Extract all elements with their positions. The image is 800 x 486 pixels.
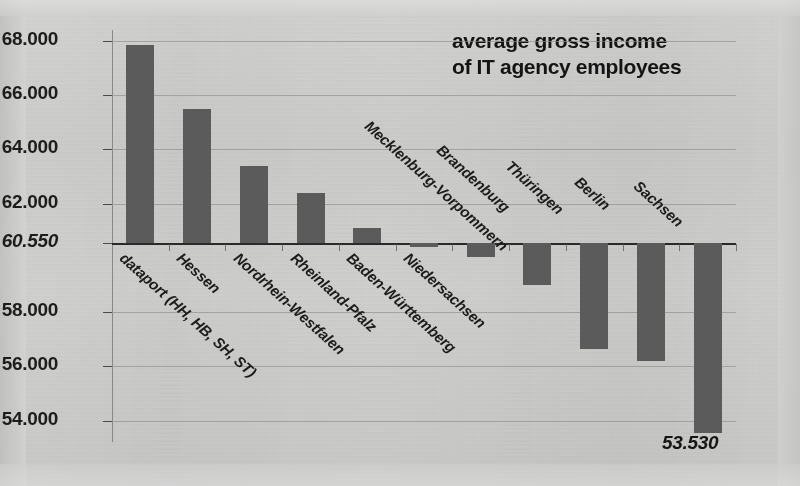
- bar: [183, 109, 211, 243]
- bar: [523, 243, 551, 285]
- min-value-annotation: 53.530: [662, 432, 718, 454]
- bar: [694, 243, 722, 433]
- x-axis-tick: [339, 244, 340, 251]
- x-axis-tick: [169, 244, 170, 251]
- chart-page: average gross income of IT agency employ…: [0, 0, 800, 486]
- plot-area: [0, 0, 800, 486]
- bar: [240, 166, 268, 243]
- x-axis-tick: [679, 244, 680, 251]
- bar: [637, 243, 665, 361]
- bar: [580, 243, 608, 349]
- bar: [297, 193, 325, 243]
- x-axis-tick: [736, 244, 737, 251]
- bar: [410, 243, 438, 247]
- x-axis-tick: [282, 244, 283, 251]
- x-axis-tick: [396, 244, 397, 251]
- bar: [353, 228, 381, 243]
- x-axis-tick: [509, 244, 510, 251]
- x-axis-tick: [452, 244, 453, 251]
- x-axis-tick: [566, 244, 567, 251]
- x-axis-tick: [225, 244, 226, 251]
- x-axis-tick: [623, 244, 624, 251]
- bar: [126, 45, 154, 243]
